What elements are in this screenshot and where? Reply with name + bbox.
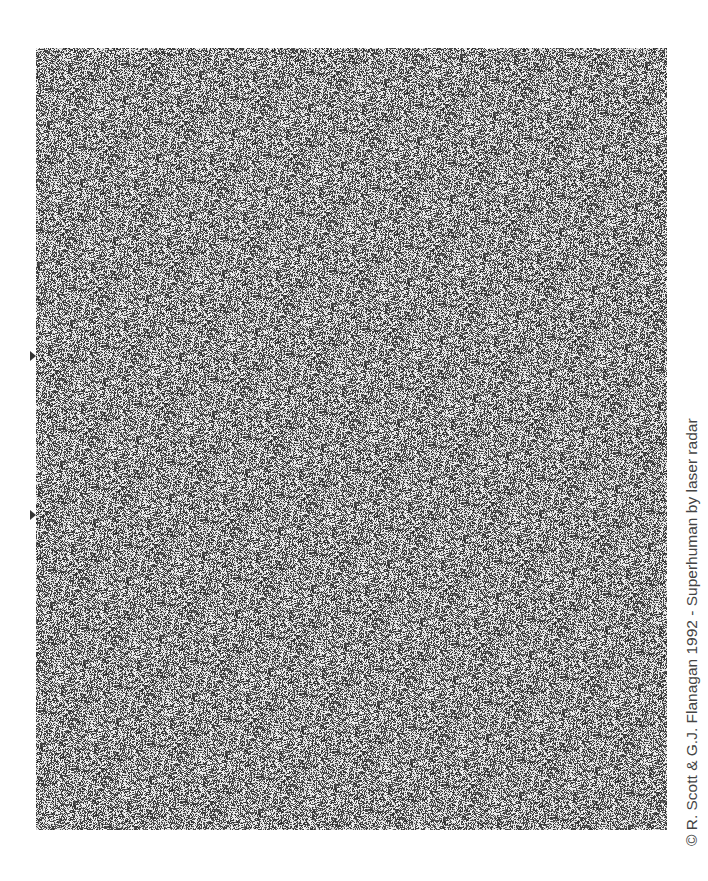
credit-caption-container: © R. Scott & G.J. Flanagan 1992 - Superh… bbox=[683, 236, 703, 846]
alignment-marker-bottom bbox=[30, 510, 36, 520]
credit-caption: © R. Scott & G.J. Flanagan 1992 - Superh… bbox=[683, 418, 701, 846]
stereogram-noise-pattern bbox=[36, 48, 667, 830]
alignment-marker-top bbox=[30, 351, 36, 361]
